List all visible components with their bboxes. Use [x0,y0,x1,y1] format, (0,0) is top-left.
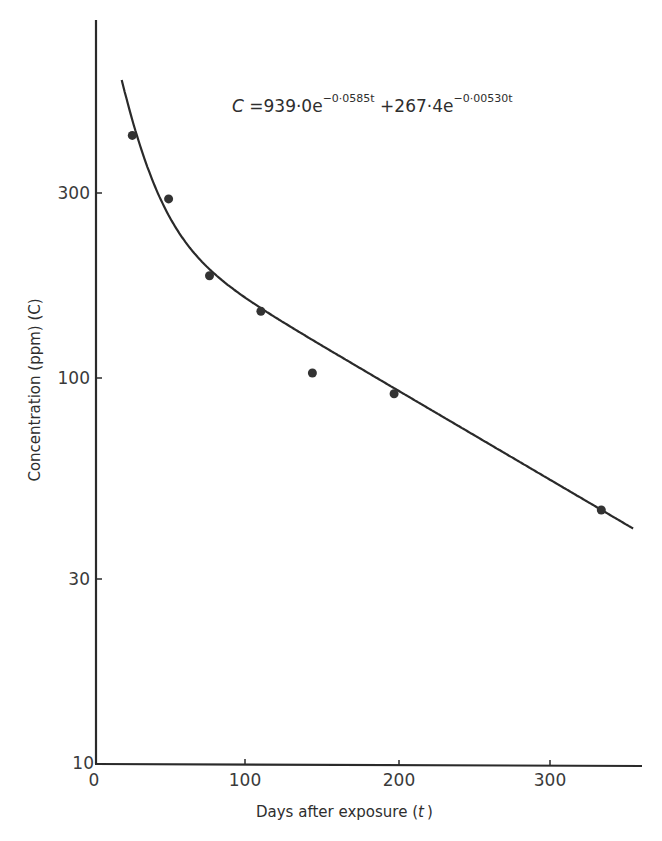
data-point [164,194,173,203]
y-tick-label-100: 100 [58,368,90,388]
data-point [597,506,606,515]
x-tick-label-300: 300 [534,770,566,790]
fitted-curve [122,80,633,529]
data-points [128,131,606,515]
data-point [308,369,317,378]
x-tick-label-100: 100 [229,770,261,790]
x-tick-label-0: 0 [89,770,100,790]
x-axis-title: Days after exposure (t) [256,803,433,821]
data-point [256,307,265,316]
y-tick-label-30: 30 [68,569,90,589]
x-axis [95,764,642,766]
y-axis-title: Concentration (ppm) (C) [26,298,44,481]
x-tick-label-200: 200 [383,770,415,790]
data-point [390,389,399,398]
equation-annotation: C =939·0e−0·0585t +267·4e−0·00530t [232,92,513,116]
data-point [128,131,137,140]
data-point [205,271,214,280]
y-tick-label-300: 300 [58,183,90,203]
decay-chart: 300 100 30 10 0 100 200 300 Days after e… [0,0,662,841]
